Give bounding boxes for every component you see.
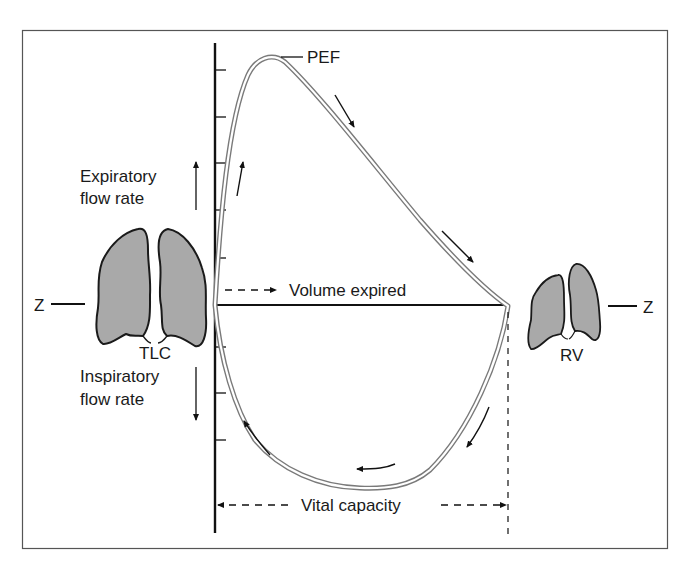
volume-expired-label: Volume expired [289, 281, 406, 300]
lungs-rv-icon [528, 264, 600, 349]
flow-volume-loop [215, 57, 508, 488]
flow-volume-loop-diagram: PEF Expiratory flow rate Inspiratory flo… [0, 0, 689, 568]
expiratory-flow-label-line1: Expiratory [80, 167, 157, 186]
z-left-label: Z [34, 296, 44, 315]
expiratory-flow-label-line2: flow rate [80, 189, 144, 208]
inspiratory-flow-label-line2: flow rate [80, 390, 144, 409]
tlc-label: TLC [139, 344, 171, 363]
arrow-up-icon [237, 162, 243, 196]
pef-label: PEF [307, 48, 340, 67]
lungs-tlc-icon [96, 229, 206, 346]
z-right-label: Z [643, 298, 653, 317]
vital-capacity-label: Vital capacity [301, 496, 401, 515]
rv-label: RV [560, 346, 584, 365]
inspiratory-flow-label-line1: Inspiratory [80, 367, 160, 386]
arrow-left-icon [357, 464, 395, 469]
arrow-up-left-icon [244, 421, 270, 455]
